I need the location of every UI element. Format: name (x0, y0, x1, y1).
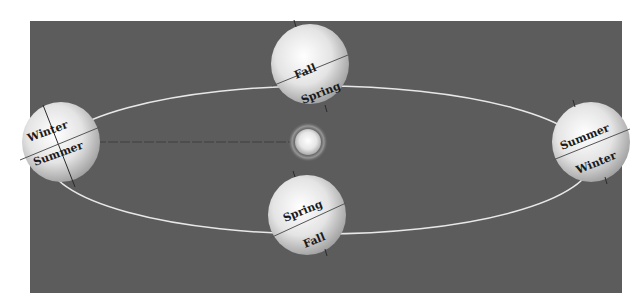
seasons-diagram: Winter Summer Fall Spring Summer Winter … (0, 0, 642, 303)
sun-icon (295, 129, 321, 155)
sun (288, 122, 328, 162)
